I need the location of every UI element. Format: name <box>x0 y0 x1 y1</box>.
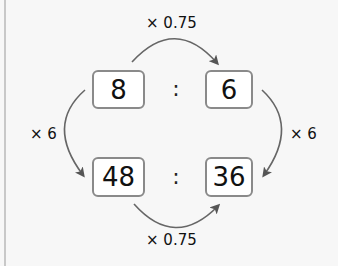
arrow-left-8-to-48 <box>64 90 85 175</box>
arrow-bottom-48-to-36 <box>134 204 218 228</box>
value-box-bottom-right: 36 <box>205 157 253 197</box>
ratio-separator-top: : <box>166 78 186 100</box>
arrow-top-8-to-6 <box>132 39 217 63</box>
multiplier-label-top: × 0.75 <box>146 16 197 31</box>
arrow-right-6-to-36 <box>262 90 282 175</box>
multiplier-label-bottom: × 0.75 <box>146 233 197 248</box>
value-box-top-left: 8 <box>92 70 145 109</box>
ratio-separator-bottom: : <box>166 166 186 188</box>
multiplier-label-right: × 6 <box>290 127 317 142</box>
value-box-bottom-left: 48 <box>92 157 145 197</box>
multiplier-label-left: × 6 <box>30 127 57 142</box>
value-box-top-right: 6 <box>205 70 253 109</box>
